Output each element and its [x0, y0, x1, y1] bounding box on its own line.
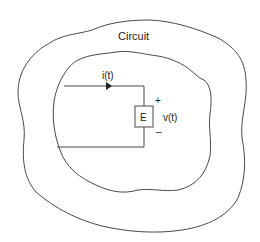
circuit-diagram: Circuit i(t) E + – v(t) — [0, 0, 260, 242]
source-label: E — [140, 112, 147, 123]
current-arrow-icon — [106, 82, 112, 90]
bottom-wire — [57, 127, 144, 147]
voltage-label: v(t) — [163, 112, 177, 123]
top-wire — [64, 86, 144, 106]
minus-sign: – — [156, 126, 162, 137]
circuit-title: Circuit — [118, 30, 149, 42]
current-label: i(t) — [102, 70, 114, 81]
plus-sign: + — [155, 95, 161, 106]
inner-boundary — [53, 51, 211, 192]
